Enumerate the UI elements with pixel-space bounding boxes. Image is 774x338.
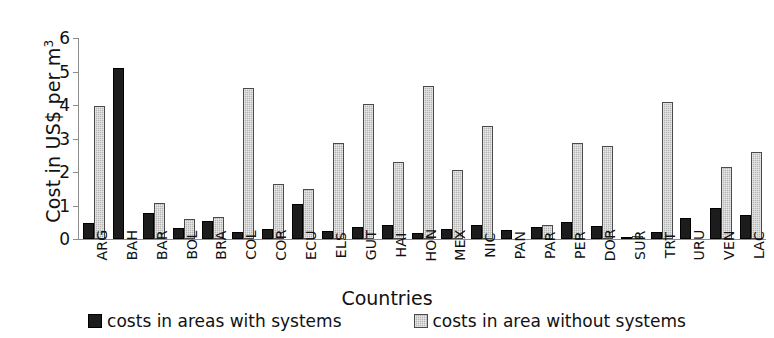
bar-group xyxy=(288,38,318,239)
bar xyxy=(143,213,154,239)
plot-area: 0123456 xyxy=(78,38,766,240)
bar xyxy=(680,218,691,239)
y-tick-mark xyxy=(73,206,78,207)
bar-group xyxy=(438,38,468,239)
bar-group xyxy=(109,38,139,239)
bar xyxy=(352,227,363,239)
x-tick-label: PAN xyxy=(512,231,528,260)
y-tick-mark xyxy=(73,172,78,173)
x-tick-label: NIC xyxy=(482,232,498,257)
x-tick: MEX xyxy=(438,243,468,291)
x-tick-label: BRA xyxy=(213,230,229,259)
legend-label: costs in areas with systems xyxy=(107,311,341,331)
bar-group xyxy=(706,38,736,239)
bar xyxy=(602,146,613,239)
x-tick: SUR xyxy=(617,243,647,291)
x-tick: COR xyxy=(258,243,288,291)
x-tick: BOL xyxy=(169,243,199,291)
bar xyxy=(333,143,344,239)
x-tick: ECU xyxy=(288,243,318,291)
bar-group xyxy=(139,38,169,239)
bar xyxy=(94,106,105,239)
bar-group xyxy=(467,38,497,239)
x-tick-label: ARG xyxy=(94,229,110,260)
x-tick-label: SUR xyxy=(632,230,648,260)
bar xyxy=(322,231,333,239)
bar-group xyxy=(617,38,647,239)
bar xyxy=(482,126,493,239)
bar-group xyxy=(228,38,258,239)
bar xyxy=(572,143,583,239)
bar xyxy=(531,227,542,239)
bar xyxy=(751,152,762,239)
bar xyxy=(621,237,632,239)
x-tick: HAI xyxy=(378,243,408,291)
bar xyxy=(262,229,273,239)
x-tick-label: ELS xyxy=(333,232,349,258)
y-tick-mark xyxy=(73,72,78,73)
legend-swatch-dark xyxy=(88,314,102,328)
bar-group xyxy=(647,38,677,239)
x-tick-label: HAI xyxy=(393,232,409,257)
y-tick-mark xyxy=(73,239,78,240)
x-tick: ELS xyxy=(318,243,348,291)
x-tick-label: ECU xyxy=(303,230,319,260)
y-tick-mark xyxy=(73,105,78,106)
bar xyxy=(292,204,303,239)
y-tick-mark xyxy=(73,139,78,140)
bar xyxy=(501,230,512,239)
bar-group xyxy=(79,38,109,239)
bar xyxy=(740,215,751,239)
x-tick: URU xyxy=(677,243,707,291)
bar xyxy=(710,208,721,239)
x-tick-label: GUT xyxy=(363,230,379,261)
y-tick-label: 2 xyxy=(44,164,70,181)
x-tick: HON xyxy=(408,243,438,291)
x-tick-label: BOL xyxy=(184,230,200,259)
x-tick-label: BAH xyxy=(124,230,140,261)
x-tick: TRT xyxy=(647,243,677,291)
x-tick: PAR xyxy=(527,243,557,291)
bar-group xyxy=(587,38,617,239)
x-tick-label: COR xyxy=(273,229,289,260)
x-axis-ticks: ARGBAHBARBOLBRACOLCORECUELSGUTHAIHONMEXN… xyxy=(79,243,766,291)
x-tick-label: BAR xyxy=(154,230,170,260)
x-tick-label: URU xyxy=(691,229,707,260)
x-tick: VEN xyxy=(706,243,736,291)
bar xyxy=(113,68,124,239)
bar xyxy=(591,226,602,239)
bar-group xyxy=(527,38,557,239)
x-tick: COL xyxy=(228,243,258,291)
x-tick-label: VEN xyxy=(721,230,737,260)
bar-chart-figure: Cost in US$ per m3 0123456 ARGBAHBARBOLB… xyxy=(0,0,774,338)
x-tick-label: DOR xyxy=(602,229,618,261)
x-tick: GUT xyxy=(348,243,378,291)
bar-groups xyxy=(79,38,766,239)
bar-group xyxy=(736,38,766,239)
y-tick-mark xyxy=(73,38,78,39)
bar-group xyxy=(348,38,378,239)
bar xyxy=(202,221,213,239)
bar xyxy=(441,229,452,239)
y-tick-label: 6 xyxy=(44,30,70,47)
y-tick-label: 3 xyxy=(44,130,70,147)
bar xyxy=(561,222,572,239)
x-tick: BAH xyxy=(109,243,139,291)
legend-swatch-light xyxy=(414,314,428,328)
chart-legend: costs in areas with systemscosts in area… xyxy=(0,311,774,331)
x-tick: ARG xyxy=(79,243,109,291)
bar-group xyxy=(557,38,587,239)
bar-group xyxy=(258,38,288,239)
bar xyxy=(662,102,673,239)
bar xyxy=(83,223,94,239)
x-tick-label: COL xyxy=(243,230,259,260)
x-tick: BAR xyxy=(139,243,169,291)
bar xyxy=(412,233,423,239)
x-tick: LAC xyxy=(736,243,766,291)
bar xyxy=(471,225,482,239)
x-tick-label: PAR xyxy=(542,231,558,259)
x-tick: PAN xyxy=(497,243,527,291)
x-tick-label: MEX xyxy=(452,229,468,260)
x-tick: BRA xyxy=(199,243,229,291)
x-tick-label: LAC xyxy=(751,231,767,259)
